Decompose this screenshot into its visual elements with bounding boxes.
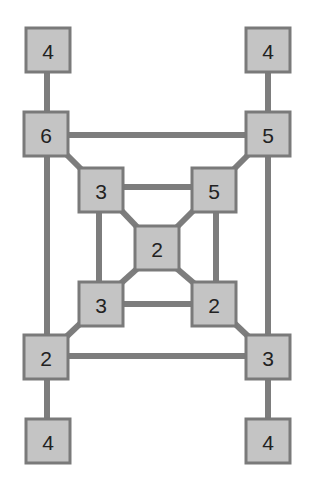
node-top-left-4: 4	[26, 28, 70, 72]
node-bottom-right-4: 4	[246, 419, 290, 463]
node-label: 3	[95, 294, 107, 317]
node-label: 4	[262, 431, 274, 454]
node-outer-3: 3	[246, 335, 290, 379]
node-label: 2	[151, 238, 163, 261]
node-label: 4	[262, 40, 274, 63]
node-outer-5: 5	[246, 112, 290, 156]
node-center-2: 2	[135, 226, 179, 270]
node-label: 3	[95, 180, 107, 203]
node-label: 6	[40, 124, 52, 147]
node-6: 6	[24, 112, 68, 156]
graph-diagram: 4 4 6 5 3 5 2 3	[0, 0, 312, 494]
node-inner-bottom-2: 2	[192, 282, 236, 326]
node-label: 4	[42, 431, 54, 454]
node-label: 3	[262, 347, 274, 370]
node-label: 5	[262, 124, 274, 147]
node-label: 5	[208, 180, 220, 203]
node-bottom-left-4: 4	[26, 419, 70, 463]
node-inner-3: 3	[79, 168, 123, 212]
nodes: 4 4 6 5 3 5 2 3	[24, 28, 290, 463]
node-label: 2	[40, 347, 52, 370]
node-inner-5: 5	[192, 168, 236, 212]
node-label: 4	[42, 40, 54, 63]
node-top-right-4: 4	[246, 28, 290, 72]
node-outer-2: 2	[24, 335, 68, 379]
node-inner-bottom-3: 3	[79, 282, 123, 326]
node-label: 2	[208, 294, 220, 317]
